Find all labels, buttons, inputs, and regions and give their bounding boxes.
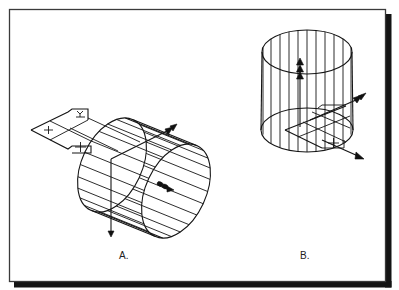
panel-b-label: B. [300,250,309,261]
figure-canvas: A. [0,0,399,290]
panel-a-label: A. [119,250,128,261]
